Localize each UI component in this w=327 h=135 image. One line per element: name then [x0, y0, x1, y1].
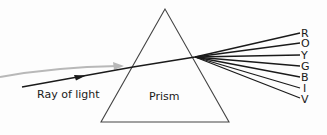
prism-diagram: R O Y G B I V Ray of light Prism: [0, 0, 327, 135]
refracted-ray: [133, 57, 195, 67]
ray-violet: [195, 57, 300, 98]
ray-blue: [195, 57, 300, 77]
ray-of-light-label: Ray of light: [37, 88, 100, 101]
spectrum-fan: [195, 33, 300, 98]
ray-arrowhead-icon: [74, 75, 86, 81]
gray-curved-arrow: [0, 66, 118, 77]
prism-label: Prism: [149, 90, 179, 103]
diagram-svg: R O Y G B I V Ray of light Prism: [0, 0, 327, 135]
spectrum-label-v: V: [301, 93, 309, 106]
